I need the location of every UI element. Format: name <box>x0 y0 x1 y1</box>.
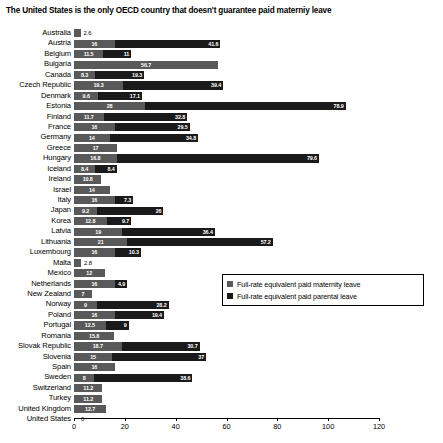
bar-value-parental: 11 <box>124 50 130 58</box>
legend-item[interactable]: Full-rate equivalent paid maternity leav… <box>227 278 419 290</box>
category-label: Denmark <box>0 91 71 101</box>
chart-row: Australia2.6 <box>0 28 443 38</box>
bar-group: 11.2 <box>74 395 440 403</box>
bar-value-parental: 19.3 <box>132 71 142 79</box>
bar-value-parental: 78.9 <box>334 102 344 110</box>
category-label: Ireland <box>0 174 71 184</box>
bar-value-parental: 26 <box>156 207 162 215</box>
bar-group: 1619.4 <box>74 311 440 319</box>
bar-group: 1434.8 <box>74 134 440 142</box>
bar-group: 1610.3 <box>74 248 440 256</box>
category-label: Slovak Republic <box>0 341 71 351</box>
bar-segment-parental[interactable] <box>123 81 223 89</box>
chart-row: Finland11.732.8 <box>0 112 443 122</box>
bar-value-maternity: 16 <box>74 280 115 288</box>
bar-segment-parental[interactable] <box>117 154 319 162</box>
bar-value-maternity: 16 <box>74 196 115 204</box>
bar-group: 15.8 <box>74 332 440 340</box>
x-axis-tick-label: 120 <box>373 422 385 431</box>
bar-segment-parental[interactable] <box>145 102 346 110</box>
chart-row: France1629.5 <box>0 122 443 132</box>
category-label: Belgium <box>0 49 71 59</box>
bar-value-maternity: 56.7 <box>74 61 218 69</box>
bar-group: 16 <box>74 363 440 371</box>
bar-segment-parental[interactable] <box>94 374 192 382</box>
x-axis-tick-label: 80 <box>273 422 281 431</box>
bar-group: 18.730.7 <box>74 342 440 350</box>
bar-segment-maternity[interactable] <box>74 29 81 37</box>
bar-group: 17 <box>74 144 440 152</box>
bar-group: 2878.9 <box>74 102 440 110</box>
bar-value-maternity: 14 <box>74 186 110 194</box>
bar-value-maternity: 14 <box>74 134 110 142</box>
bar-value-maternity: 19 <box>74 228 122 236</box>
chart-row: Slovenia1537 <box>0 352 443 362</box>
chart-row: Italy167.3 <box>0 195 443 205</box>
category-label: France <box>0 122 71 132</box>
category-label: Norway <box>0 299 71 309</box>
chart-row: Lithuania2157.2 <box>0 237 443 247</box>
x-axis-tick-mark <box>176 418 177 421</box>
x-axis-tick-label: 0 <box>72 422 76 431</box>
bar-segment-parental[interactable] <box>115 40 221 48</box>
category-label: Mexico <box>0 268 71 278</box>
bar-group: 2.6 <box>74 29 440 37</box>
bar-value-maternity: 11.7 <box>74 113 104 121</box>
bar-group: 9.617.1 <box>74 92 440 100</box>
bar-value-parental: 4.9 <box>118 280 125 288</box>
chart-row: Czech Republic19.339.4 <box>0 80 443 90</box>
bar-value-maternity: 2.8 <box>84 259 92 267</box>
bar-value-parental: 8.4 <box>107 165 114 173</box>
bar-segment-parental[interactable] <box>127 238 272 246</box>
category-label: Switzerland <box>0 383 71 393</box>
category-label: Japan <box>0 205 71 215</box>
bar-group: 2157.2 <box>74 238 440 246</box>
chart-row: Turkey11.2 <box>0 393 443 403</box>
chart-row: Bulgaria56.7 <box>0 59 443 69</box>
category-label: Portugal <box>0 320 71 330</box>
bar-value-maternity: 11.2 <box>74 384 102 392</box>
x-axis-tick-label: 100 <box>322 422 334 431</box>
bar-value-maternity: 8 <box>74 374 94 382</box>
bar-value-parental: 19.4 <box>152 311 162 319</box>
bar-value-maternity: 16 <box>74 40 115 48</box>
bar-value-parental: 34.8 <box>186 134 196 142</box>
bar-group: 8.319.3 <box>74 71 440 79</box>
bar-segment-parental[interactable] <box>112 353 206 361</box>
chart-row: Slovak Republic18.730.7 <box>0 341 443 351</box>
bar-value-maternity: 16 <box>74 363 115 371</box>
bar-value-maternity: 8.4 <box>74 165 95 173</box>
legend-item[interactable]: Full-rate equivalent paid parental leave <box>227 290 419 302</box>
category-label: Hungary <box>0 153 71 163</box>
legend-label: Full-rate equivalent paid parental leave <box>237 292 357 301</box>
chart-row: Estonia2878.9 <box>0 101 443 111</box>
bar-segment-parental[interactable] <box>97 207 163 215</box>
category-label: Malta <box>0 258 71 268</box>
x-axis-tick-label: 60 <box>222 422 230 431</box>
category-label: Israel <box>0 185 71 195</box>
bar-value-parental: 79.6 <box>307 154 317 162</box>
bar-value-maternity: 9.6 <box>74 92 98 100</box>
bar-group: 1936.4 <box>74 228 440 236</box>
chart-row: Japan9.226 <box>0 205 443 215</box>
chart-row: Portugal12.59 <box>0 320 443 330</box>
bar-segment-parental[interactable] <box>110 134 198 142</box>
bar-segment-parental[interactable] <box>122 228 215 236</box>
bar-group: 12.59 <box>74 321 440 329</box>
bar-value-maternity: 17 <box>74 144 117 152</box>
bar-group: 56.7 <box>74 61 440 69</box>
x-axis-tick-label: 20 <box>121 422 129 431</box>
chart-row: Hungary16.879.6 <box>0 153 443 163</box>
x-axis-tick-label: 40 <box>172 422 180 431</box>
category-label: Slovenia <box>0 352 71 362</box>
bar-group: 19.339.4 <box>74 81 440 89</box>
bar-group: 12.89.7 <box>74 217 440 225</box>
bar-group: 2.8 <box>74 259 440 267</box>
bar-segment-maternity[interactable] <box>74 259 81 267</box>
x-axis: 020406080100120 <box>74 418 440 442</box>
chart-row: Spain16 <box>0 362 443 372</box>
bar-group: 9.226 <box>74 207 440 215</box>
category-label: Canada <box>0 70 71 80</box>
bar-value-parental: 29.5 <box>178 123 188 131</box>
chart-row: Luxembourg1610.3 <box>0 247 443 257</box>
